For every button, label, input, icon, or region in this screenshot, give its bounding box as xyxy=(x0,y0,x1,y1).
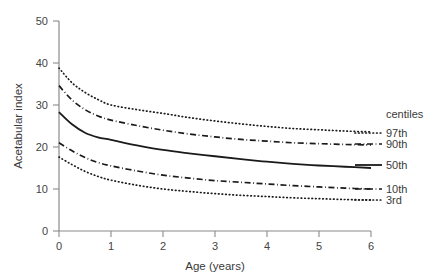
y-tick-label: 20 xyxy=(36,141,48,153)
y-tick-label: 0 xyxy=(42,225,48,237)
acetabular-index-centile-chart: 50 40 30 20 10 0 0 1 2 3 4 5 6 A xyxy=(0,0,435,276)
legend-title: centiles xyxy=(386,108,424,120)
legend-label-50th: 50th xyxy=(386,159,407,171)
chart-figure: 50 40 30 20 10 0 0 1 2 3 4 5 6 A xyxy=(0,0,435,276)
legend-label-3rd: 3rd xyxy=(386,194,402,206)
y-tick-label: 10 xyxy=(36,183,48,195)
y-tick-label: 40 xyxy=(36,57,48,69)
x-tick-label: 2 xyxy=(160,240,166,252)
x-tick-label: 6 xyxy=(368,240,374,252)
x-tick-label: 5 xyxy=(316,240,322,252)
y-tick-label: 50 xyxy=(36,15,48,27)
x-axis-title: Age (years) xyxy=(185,260,245,272)
y-axis-title: Acetabular index xyxy=(12,83,24,169)
legend-label-90th: 90th xyxy=(386,138,407,150)
x-tick-label: 3 xyxy=(212,240,218,252)
x-tick-label: 1 xyxy=(108,240,114,252)
y-tick-label: 30 xyxy=(36,99,48,111)
x-tick-label: 0 xyxy=(56,240,62,252)
x-tick-label: 4 xyxy=(264,240,270,252)
